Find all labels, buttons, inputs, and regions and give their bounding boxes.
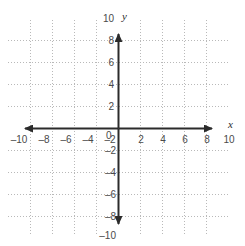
x-tick-label-6: 6: [182, 135, 188, 145]
origin-label: 0: [106, 131, 112, 141]
grid-and-axes: [0, 0, 245, 246]
x-tick-label-neg6: –6: [60, 135, 71, 145]
y-tick-label-6: 6: [108, 58, 114, 68]
y-tick-label-2: 2: [108, 102, 114, 112]
y-tick-label-10: 10: [103, 14, 114, 24]
x-tick-label-neg10: –10: [11, 135, 28, 145]
x-tick-label-8: 8: [204, 135, 210, 145]
y-tick-label-neg6: –6: [105, 190, 116, 200]
x-axis-label: x: [228, 119, 233, 130]
x-tick-label-neg8: –8: [38, 135, 49, 145]
y-tick-label-neg8: –8: [105, 212, 116, 222]
x-tick-label-2: 2: [138, 135, 144, 145]
coordinate-plane: –10 –8 –6 –4 –2 2 4 6 8 10 10 8 6 4 2 –2…: [0, 0, 245, 246]
y-tick-label-neg4: –4: [105, 168, 116, 178]
y-axis-label: y: [122, 11, 127, 22]
x-tick-label-neg4: –4: [82, 135, 93, 145]
y-tick-label-neg2: –2: [105, 146, 116, 156]
y-tick-label-neg10: –10: [99, 231, 116, 241]
x-tick-label-4: 4: [160, 135, 166, 145]
y-tick-label-8: 8: [108, 36, 114, 46]
y-tick-label-4: 4: [108, 80, 114, 90]
x-tick-label-10: 10: [223, 135, 234, 145]
